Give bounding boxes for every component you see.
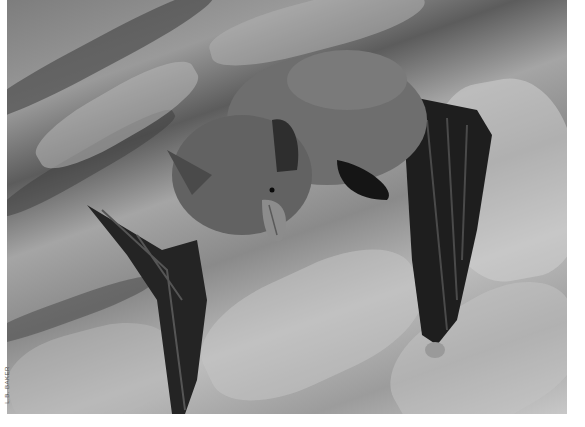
bat-eye <box>270 188 275 193</box>
bat-foot <box>425 342 445 358</box>
bat-back-fur <box>287 50 407 110</box>
bat-photograph <box>7 0 567 414</box>
left-wing <box>87 205 207 414</box>
photo-credit-text: L.B. BAKER <box>4 360 10 410</box>
photo-credit: L.B. BAKER <box>0 362 7 412</box>
bat-figure <box>7 0 567 414</box>
